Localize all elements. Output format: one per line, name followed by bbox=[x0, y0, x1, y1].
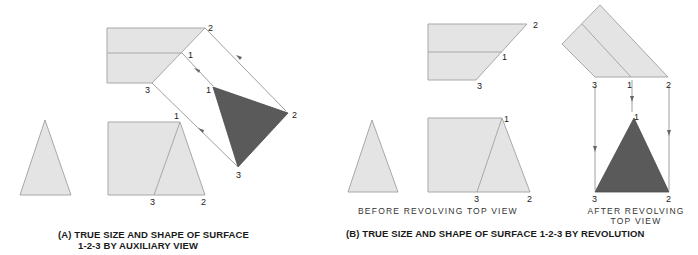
panel-b-after-label-line1: AFTER REVOLVING bbox=[582, 206, 690, 216]
panel-b-true-shape-label-3: 3 bbox=[592, 194, 597, 204]
panel-b-rotated-top-view bbox=[562, 5, 668, 77]
panel-b: 2 1 3 3 1 2 1 3 2 1 3 2 bbox=[348, 5, 671, 204]
panel-a-aux-label-1: 1 bbox=[206, 85, 211, 95]
panel-a-front-label-1: 1 bbox=[174, 111, 179, 121]
panel-b-rotated-label-1: 1 bbox=[627, 80, 632, 90]
panel-a-side-view-triangle bbox=[20, 120, 71, 195]
panel-a-aux-label-2: 2 bbox=[292, 110, 297, 120]
panel-b-true-shape-triangle bbox=[595, 118, 669, 192]
panel-a-caption-line2: 1-2-3 BY AUXILIARY VIEW bbox=[78, 240, 198, 251]
panel-b-before-label: BEFORE REVOLVING TOP VIEW bbox=[358, 206, 518, 216]
panel-a-top-label-1: 1 bbox=[188, 50, 193, 60]
arrow-icon bbox=[236, 55, 242, 60]
panel-b-top-label-1: 1 bbox=[502, 52, 507, 62]
panel-b-caption: (B) TRUE SIZE AND SHAPE OF SURFACE 1-2-3… bbox=[346, 228, 644, 239]
panel-b-front-view bbox=[428, 118, 530, 192]
panel-a-front-view bbox=[108, 122, 205, 195]
arrow-icon bbox=[198, 128, 204, 133]
panel-a: 2 1 3 1 2 3 1 3 2 bbox=[20, 23, 297, 207]
panel-b-true-shape-label-1: 1 bbox=[634, 112, 639, 122]
panel-b-rotated-label-3: 3 bbox=[592, 80, 597, 90]
panel-a-front-label-3: 3 bbox=[150, 197, 155, 207]
panel-b-top-label-2: 2 bbox=[533, 20, 538, 30]
panel-a-top-label-3: 3 bbox=[145, 85, 150, 95]
panel-b-front-label-3: 3 bbox=[474, 194, 479, 204]
panel-a-caption-line1: (A) TRUE SIZE AND SHAPE OF SURFACE bbox=[58, 229, 249, 240]
panel-b-top-label-3: 3 bbox=[477, 81, 482, 91]
panel-a-front-label-2: 2 bbox=[201, 197, 206, 207]
panel-b-front-label-1: 1 bbox=[504, 114, 509, 124]
panel-a-top-label-2: 2 bbox=[208, 23, 213, 33]
panel-a-aux-label-3: 3 bbox=[236, 170, 241, 180]
panel-b-front-label-2: 2 bbox=[527, 194, 532, 204]
panel-b-side-view-triangle bbox=[348, 120, 398, 192]
panel-b-true-shape-label-2: 2 bbox=[666, 194, 671, 204]
panel-a-true-shape-triangle bbox=[213, 87, 288, 167]
arrow-icon bbox=[630, 96, 634, 102]
panel-b-rotated-label-2: 2 bbox=[666, 80, 671, 90]
arrow-icon bbox=[593, 146, 597, 152]
panel-b-after-label-line2: TOP VIEW bbox=[582, 216, 690, 226]
arrow-icon bbox=[667, 130, 671, 136]
